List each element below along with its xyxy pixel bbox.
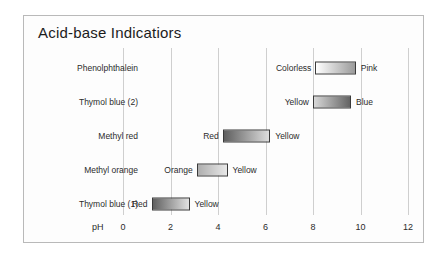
axis-tick-10: 10 (349, 222, 373, 232)
transition-range-bar (315, 62, 355, 75)
indicator-name-label: Thymol blue (1) (79, 199, 138, 209)
transition-range-bar (197, 164, 228, 177)
indicator-name-label: Methyl red (98, 131, 138, 141)
figure-canvas: Acid-base Indicatiors PhenolphthaleinCol… (0, 0, 444, 257)
base-form-color-label: Yellow (195, 199, 219, 209)
transition-range-bar (223, 130, 271, 143)
axis-tick-8: 8 (301, 222, 325, 232)
indicator-row: Thymol blue (2)YellowBlue (0, 91, 444, 113)
base-form-color-label: Blue (356, 97, 373, 107)
acid-form-color-label: Red (132, 199, 148, 209)
indicator-row: Methyl redRedYellow (0, 125, 444, 147)
indicator-name-label: Thymol blue (2) (79, 97, 138, 107)
indicator-name-label: Phenolphthalein (77, 63, 138, 73)
base-form-color-label: Yellow (275, 131, 299, 141)
transition-range-bar (152, 198, 190, 211)
axis-tick-0: 0 (111, 222, 135, 232)
axis-tick-4: 4 (206, 222, 230, 232)
axis-tick-2: 2 (159, 222, 183, 232)
axis-tick-6: 6 (254, 222, 278, 232)
base-form-color-label: Yellow (233, 165, 257, 175)
indicator-row: PhenolphthaleinColorlessPink (0, 57, 444, 79)
indicator-name-label: Methyl orange (84, 165, 138, 175)
ph-axis-label: pH (92, 222, 104, 232)
acid-form-color-label: Colorless (276, 63, 311, 73)
acid-form-color-label: Red (203, 131, 219, 141)
base-form-color-label: Pink (361, 63, 378, 73)
acid-form-color-label: Yellow (285, 97, 309, 107)
acid-form-color-label: Orange (164, 165, 192, 175)
axis-tick-12: 12 (396, 222, 420, 232)
indicator-row: Methyl orangeOrangeYellow (0, 159, 444, 181)
plot-area: PhenolphthaleinColorlessPinkThymol blue … (0, 0, 444, 257)
indicator-row: Thymol blue (1)RedYellow (0, 193, 444, 215)
transition-range-bar (313, 96, 351, 109)
